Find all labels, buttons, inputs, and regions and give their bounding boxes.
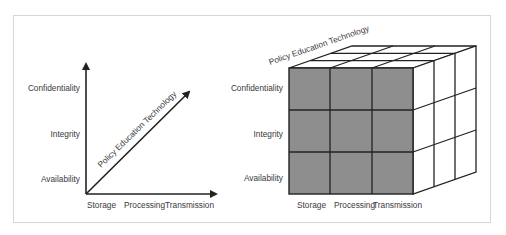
cube-y-label-integrity: Integrity [253,129,283,139]
cube-right-face [413,46,476,194]
cube-y-label-availability: Availability [244,173,284,183]
cube-x-label-transmission: Transmission [373,200,422,210]
cube-x-label-storage: Storage [297,200,326,210]
cube-front-face [289,68,413,194]
mccumber-cube: Confidentiality Integrity Availability S… [231,23,476,210]
diagonal-label: Policy Education Technology [95,88,178,169]
y-label-confidentiality: Confidentiality [28,83,81,93]
diagonal-axis-arrow [86,92,189,194]
x-label-processing: Processing [124,200,165,210]
y-label-availability: Availability [41,174,81,184]
x-label-transmission: Transmission [165,200,214,210]
diagram-canvas: Confidentiality Integrity Availability S… [0,0,506,235]
y-label-integrity: Integrity [50,129,80,139]
cube-y-label-confidentiality: Confidentiality [231,83,284,93]
left-axes-diagram: Confidentiality Integrity Availability S… [28,64,216,210]
cube-x-label-processing: Processing [334,200,375,210]
x-label-storage: Storage [87,200,116,210]
